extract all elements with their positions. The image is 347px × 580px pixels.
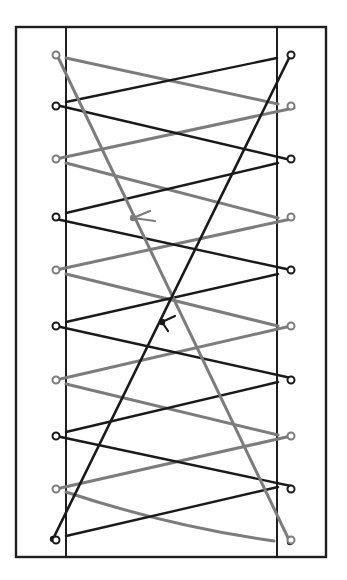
dark-lace-segment (66, 382, 278, 432)
eyelet-left-icon (53, 214, 60, 221)
gray-lace-segment (66, 492, 274, 541)
crossing-band-6 (66, 382, 278, 435)
eyelet-right-icon (288, 486, 295, 493)
eyelet-left-icon (53, 433, 60, 440)
crossing-band-8 (66, 487, 278, 541)
eyelet-left-icon (53, 267, 60, 274)
lacing-diagram (0, 0, 347, 580)
eyelet-left-icon (53, 377, 60, 384)
crossing-band-2 (66, 163, 278, 218)
eyelet-left-icon (53, 103, 60, 110)
crossing-band-1 (56, 105, 294, 160)
eyelet-right-icon (288, 156, 295, 163)
eyelet-left-icon (53, 537, 60, 544)
eyelet-right-icon (288, 103, 295, 110)
diagonal-laces (50, 54, 293, 545)
eyelet-left-icon (53, 156, 60, 163)
eyelet-left-icon (53, 52, 60, 59)
gray-lace-segment (66, 384, 278, 435)
crossing-band-0 (66, 58, 278, 104)
crossing-band-5 (56, 326, 291, 380)
lacing-diagram-stage: Shoe lacing diagram — double-helix criss… (0, 0, 347, 580)
direction-arrows (130, 211, 175, 331)
eyelet-right-icon (288, 377, 295, 384)
eyelet-right-icon (288, 52, 295, 59)
eyelet-left-icon (53, 323, 60, 330)
eyelet-right-icon (288, 323, 295, 330)
eyelet-right-icon (288, 267, 295, 274)
eyelet-right-icon (288, 214, 295, 221)
eyelet-right-icon (288, 433, 295, 440)
dark-lace-segment (66, 487, 278, 536)
crossing-band-3 (56, 219, 291, 270)
eyelet-left-icon (53, 486, 60, 493)
eyelet-right-icon (288, 537, 295, 544)
